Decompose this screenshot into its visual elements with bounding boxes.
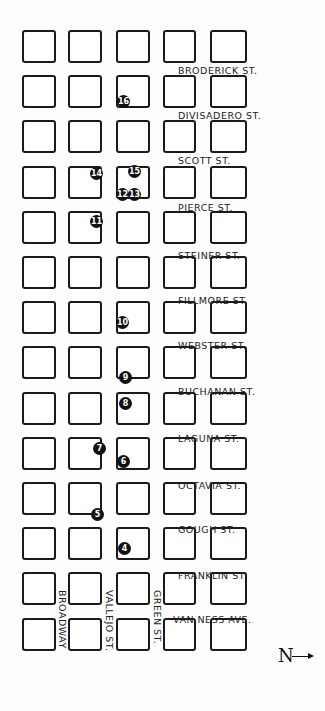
location-marker[interactable]: 7 — [93, 442, 106, 455]
city-block — [68, 75, 102, 108]
street-label: Scott St. — [178, 155, 231, 166]
city-block — [210, 120, 247, 153]
city-block — [22, 120, 56, 153]
city-block — [22, 437, 56, 470]
street-label: Octavia St. — [178, 480, 241, 491]
street-label: Steiner St. — [178, 250, 241, 261]
city-block — [210, 166, 247, 199]
city-block — [22, 392, 56, 425]
location-marker[interactable]: 15 — [128, 165, 141, 178]
city-block — [210, 75, 247, 108]
city-block — [22, 346, 56, 379]
city-block — [22, 572, 56, 605]
location-marker[interactable]: 9 — [119, 371, 132, 384]
street-label: Buchanan St. — [178, 386, 255, 397]
street-label: Divisadero St. — [178, 110, 261, 121]
street-label: Franklin St. — [178, 570, 247, 581]
city-block — [210, 346, 247, 379]
city-block — [22, 618, 56, 651]
city-block — [163, 301, 196, 334]
city-block — [163, 75, 196, 108]
street-label-vertical: Broadway — [57, 590, 68, 649]
city-block — [116, 30, 150, 63]
city-block — [163, 166, 196, 199]
street-label: Laguna St. — [178, 433, 240, 444]
city-block — [68, 346, 102, 379]
city-block — [116, 618, 150, 651]
location-marker[interactable]: 5 — [91, 508, 104, 521]
city-block — [68, 392, 102, 425]
city-block — [22, 301, 56, 334]
city-block — [22, 75, 56, 108]
city-block — [210, 30, 247, 63]
city-block — [68, 120, 102, 153]
location-marker[interactable]: 4 — [118, 542, 131, 555]
city-block — [116, 572, 150, 605]
city-block — [68, 618, 102, 651]
location-marker[interactable]: 8 — [119, 397, 132, 410]
street-label: Fillmore St. — [178, 295, 248, 306]
city-block — [22, 482, 56, 515]
city-block — [116, 482, 150, 515]
street-label: Webster St. — [178, 340, 246, 351]
north-arrow-icon — [292, 656, 310, 657]
location-marker[interactable]: 16 — [117, 95, 130, 108]
street-label: Gough St. — [178, 524, 236, 535]
street-label: Pierce St. — [178, 202, 233, 213]
location-marker[interactable]: 11 — [90, 215, 103, 228]
city-block — [116, 256, 150, 289]
city-block — [163, 30, 196, 63]
city-block — [22, 256, 56, 289]
location-marker[interactable]: 13 — [128, 188, 141, 201]
city-block — [116, 120, 150, 153]
city-block — [22, 527, 56, 560]
street-label-vertical: Vallejo St. — [104, 590, 115, 652]
city-block — [163, 346, 196, 379]
location-marker[interactable]: 14 — [90, 167, 103, 180]
location-marker[interactable]: 10 — [116, 316, 129, 329]
city-block — [22, 211, 56, 244]
street-label: Broderick St. — [178, 65, 257, 76]
street-label: Van Ness Ave. — [173, 614, 252, 625]
city-block — [163, 120, 196, 153]
city-block — [22, 30, 56, 63]
street-label-vertical: Green St. — [152, 590, 163, 644]
city-block — [68, 30, 102, 63]
city-block — [68, 256, 102, 289]
city-block — [68, 527, 102, 560]
location-marker[interactable]: 6 — [117, 455, 130, 468]
city-block — [163, 211, 196, 244]
city-block — [210, 301, 247, 334]
city-block — [68, 301, 102, 334]
city-block — [116, 211, 150, 244]
city-block — [68, 572, 102, 605]
city-block — [22, 166, 56, 199]
city-block — [210, 211, 247, 244]
